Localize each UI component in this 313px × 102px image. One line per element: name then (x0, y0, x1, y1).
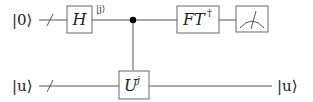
inverse-qft-gate: FT † (177, 6, 219, 33)
inverse-qft-gate-label: FT (182, 10, 206, 29)
eigenstate-output-label: |u⟩ (277, 77, 298, 95)
control-dot-icon (130, 17, 136, 23)
inverse-qft-gate-superscript: † (207, 7, 212, 18)
quantum-circuit-diagram: |0⟩ |u⟩ |u⟩ H |j⟩ U j FT † (0, 0, 313, 102)
hadamard-gate-label: H (72, 10, 88, 29)
register-input-label: |0⟩ (12, 11, 32, 29)
measurement-gate-box (236, 6, 268, 32)
measurement-gate (236, 6, 268, 32)
controlled-u-gate: U j (119, 71, 149, 99)
state-j-annotation: |j⟩ (96, 4, 105, 15)
eigenstate-wire (39, 80, 272, 92)
eigenstate-input-label: |u⟩ (12, 77, 33, 95)
controlled-u-gate-label: U (124, 76, 138, 95)
hadamard-gate: H (67, 6, 92, 33)
